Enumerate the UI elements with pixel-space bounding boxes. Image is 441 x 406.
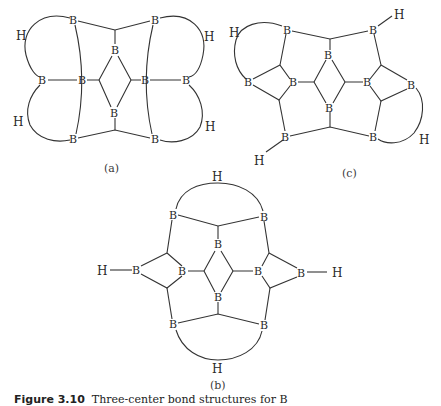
boron-atom: B xyxy=(182,74,190,87)
boron-atom: B xyxy=(363,76,371,89)
hydrogen-atom: H xyxy=(16,29,26,43)
hydrogen-atom: H xyxy=(212,170,222,184)
subfigure-label-b: (b) xyxy=(210,379,226,392)
boron-atom: B xyxy=(214,291,222,304)
boron-atom: B xyxy=(297,267,305,280)
boron-atom: B xyxy=(69,133,77,146)
boron-atom: B xyxy=(141,74,149,87)
boron-atom: B xyxy=(324,49,332,62)
boron-atom: B xyxy=(151,14,159,27)
boron-atom: B xyxy=(214,238,222,251)
boron-atom: B xyxy=(254,265,262,278)
boron-atom: B xyxy=(244,76,252,89)
structure-c: B B B B B B B B B B H H H H (c) xyxy=(229,8,429,180)
boron-atom: B xyxy=(369,131,377,144)
caption-text: Three-center bond structures for B xyxy=(92,393,288,406)
hydrogen-atom: H xyxy=(332,266,342,280)
hydrogen-atom: H xyxy=(204,30,214,44)
boron-atom: B xyxy=(110,107,118,120)
figure-caption: Figure 3.10 Three-center bond structures… xyxy=(14,393,288,406)
hydrogen-atom: H xyxy=(212,362,222,376)
subfigure-label-c: (c) xyxy=(342,167,357,180)
boron-atom: B xyxy=(281,131,289,144)
hydrogen-atom: H xyxy=(205,120,215,134)
boron-atom: B xyxy=(178,265,186,278)
hydrogen-atom: H xyxy=(254,154,264,168)
hydrogen-atom: H xyxy=(97,264,107,278)
structure-a: B B B B B B B B B B H H H H (a) xyxy=(13,14,215,175)
hydrogen-atom: H xyxy=(419,133,429,147)
boron-atom: B xyxy=(38,74,46,87)
structure-b: B B B B B B B B B B H H H H (b) xyxy=(97,170,342,392)
boron-atom: B xyxy=(78,74,86,87)
boron-atom: B xyxy=(169,209,177,222)
hydrogen-atom: H xyxy=(229,26,239,40)
boron-atom: B xyxy=(289,76,297,89)
caption-label: Figure 3.10 xyxy=(14,393,85,406)
hydrogen-atom: H xyxy=(394,8,404,22)
boron-atom: B xyxy=(407,79,415,92)
boron-atom: B xyxy=(260,319,268,332)
boron-atom: B xyxy=(111,44,119,57)
boron-atom: B xyxy=(260,211,268,224)
boron-atom: B xyxy=(369,24,377,37)
boron-atom: B xyxy=(283,24,291,37)
boron-atom: B xyxy=(132,264,140,277)
boron-atom: B xyxy=(151,133,159,146)
boron-atom: B xyxy=(69,14,77,27)
boron-atom: B xyxy=(325,102,333,115)
subfigure-label-a: (a) xyxy=(104,162,119,175)
boron-atom: B xyxy=(169,318,177,331)
hydrogen-atom: H xyxy=(13,115,23,129)
